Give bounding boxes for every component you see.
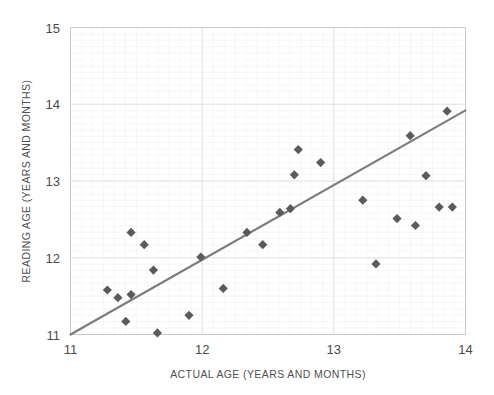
data-point-marker (153, 328, 162, 337)
x-tick-label: 11 (64, 342, 78, 357)
data-point-marker (275, 208, 284, 217)
scatter-plot-figure: 1112131415 11121314 READING AGE (YEARS A… (0, 0, 494, 395)
data-point-marker (121, 317, 130, 326)
x-axis-tick-labels: 11121314 (64, 342, 473, 357)
data-point-marker (294, 145, 303, 154)
data-point-marker (371, 259, 380, 268)
data-point-marker (196, 252, 205, 261)
data-point-marker (126, 228, 135, 237)
data-point-marker (411, 221, 420, 230)
data-point-marker (290, 170, 299, 179)
data-point-marker (219, 284, 228, 293)
y-axis-tick-labels: 1112131415 (46, 21, 60, 343)
data-point-marker (103, 285, 112, 294)
data-point-marker (392, 214, 401, 223)
x-tick-label: 13 (327, 342, 341, 357)
x-axis-title: ACTUAL AGE (YEARS AND MONTHS) (170, 368, 366, 380)
data-points (103, 107, 457, 338)
data-point-marker (421, 171, 430, 180)
data-point-marker (448, 202, 457, 211)
x-tick-label: 12 (195, 342, 209, 357)
y-tick-label: 15 (46, 21, 60, 36)
data-point-marker (184, 311, 193, 320)
y-tick-label: 12 (46, 251, 60, 266)
x-tick-label: 14 (458, 342, 472, 357)
data-point-marker (435, 202, 444, 211)
y-axis-title: READING AGE (YEARS AND MONTHS) (20, 80, 32, 283)
data-point-marker (358, 196, 367, 205)
y-tick-label: 13 (46, 174, 60, 189)
y-tick-label: 14 (46, 97, 60, 112)
data-point-marker (316, 158, 325, 167)
y-tick-label: 11 (47, 328, 61, 343)
data-point-marker (149, 265, 158, 274)
data-point-marker (258, 240, 267, 249)
